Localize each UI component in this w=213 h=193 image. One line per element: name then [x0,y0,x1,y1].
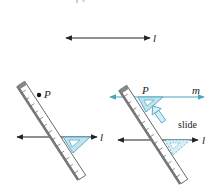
construction-diagram: l l P m [0,0,213,193]
top-fragment [76,0,85,3]
slide-label: slide [178,119,197,130]
step2-group: l P [16,81,103,180]
point-p [37,93,41,97]
line-l-label: l [153,32,156,44]
line-l-label-3: l [202,134,205,146]
step1-line-l: l [66,32,156,44]
line-l-label-2: l [100,131,103,143]
line-m-label: m [192,84,200,96]
step3-group: m P l slide [110,84,205,185]
point-p-label: P [43,88,51,100]
ruler [16,81,86,180]
point-p-label-3: P [141,84,149,96]
